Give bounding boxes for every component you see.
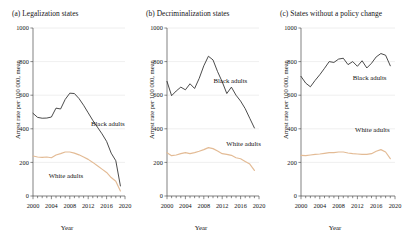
panel-c-white-adults-label: White adults: [355, 126, 390, 133]
panel-a-white-adults-label: White adults: [49, 172, 84, 179]
svg-text:1000: 1000: [284, 24, 297, 31]
svg-text:400: 400: [19, 125, 28, 132]
svg-text:400: 400: [287, 125, 296, 132]
svg-text:2020: 2020: [389, 202, 402, 209]
panel-a-black-adults-label: Black adults: [91, 120, 125, 127]
svg-text:2004: 2004: [314, 202, 327, 209]
svg-text:2012: 2012: [82, 202, 95, 209]
svg-text:2004: 2004: [179, 202, 192, 209]
svg-text:800: 800: [287, 58, 296, 65]
svg-text:2020: 2020: [253, 202, 266, 209]
svg-text:2020: 2020: [119, 202, 132, 209]
figure-three-panel-arrest-rates: (a) Legalization states Arrest rate per …: [0, 0, 404, 246]
svg-text:2004: 2004: [45, 202, 58, 209]
svg-text:2016: 2016: [234, 202, 247, 209]
panel-b-white-adults-label: White adults: [226, 140, 261, 147]
svg-text:2008: 2008: [64, 202, 77, 209]
panel-a-plot: 0200400600800100020002004200820122016202…: [0, 0, 134, 246]
svg-text:2008: 2008: [198, 202, 211, 209]
svg-text:200: 200: [19, 159, 28, 166]
svg-text:200: 200: [153, 159, 162, 166]
svg-text:2012: 2012: [216, 202, 229, 209]
panel-c-plot: 0200400600800100020002004200820122016202…: [268, 0, 404, 246]
svg-text:2000: 2000: [295, 202, 308, 209]
svg-text:600: 600: [287, 91, 296, 98]
svg-text:400: 400: [153, 125, 162, 132]
svg-text:2000: 2000: [161, 202, 174, 209]
panel-a-legalization-states: (a) Legalization states Arrest rate per …: [0, 0, 134, 246]
svg-text:2000: 2000: [27, 202, 40, 209]
svg-text:800: 800: [153, 58, 162, 65]
svg-text:200: 200: [287, 159, 296, 166]
panel-b-black-adults-label: Black adults: [213, 77, 247, 84]
panel-c-black-adults-label: Black adults: [353, 74, 387, 81]
panel-b-decriminalization-states: (b) Decriminalization states Arrest rate…: [134, 0, 268, 246]
svg-text:2008: 2008: [332, 202, 345, 209]
svg-text:600: 600: [19, 91, 28, 98]
svg-text:2016: 2016: [370, 202, 383, 209]
svg-text:1000: 1000: [16, 24, 29, 31]
svg-text:2012: 2012: [351, 202, 364, 209]
svg-text:1000: 1000: [150, 24, 163, 31]
svg-text:800: 800: [19, 58, 28, 65]
panel-c-no-policy-change-states: (c) States without a policy change Arres…: [268, 0, 404, 246]
svg-text:600: 600: [153, 91, 162, 98]
svg-text:0: 0: [294, 192, 297, 199]
svg-text:2016: 2016: [100, 202, 113, 209]
panel-b-plot: 0200400600800100020002004200820122016202…: [134, 0, 268, 246]
svg-text:0: 0: [160, 192, 163, 199]
svg-text:0: 0: [26, 192, 29, 199]
